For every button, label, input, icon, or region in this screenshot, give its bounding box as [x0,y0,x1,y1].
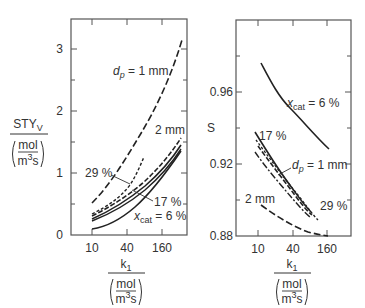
right-xtick-160: 160 [317,242,337,256]
left-xtick-10: 10 [85,241,99,255]
right-ann-xcat: xcat = 6 % [286,96,340,112]
left-xtick-160: 160 [152,241,172,255]
left-ytick-2: 2 [56,104,63,118]
right-ann-29pct: 29 % [320,199,348,213]
svg-text:mol: mol [18,138,37,152]
right-x-axis-label: k1 mol m3s [274,257,311,306]
curve-2mm [261,205,328,236]
right-ann-2mm: 2 mm [245,192,275,206]
left-ann-xcat: xcat = 6 % [133,209,187,225]
left-panel: 0 1 2 3 10 40 160 dp = 1 mm 2 mm 29 % 17… [10,19,187,306]
right-xtick-10: 10 [251,242,265,256]
left-ytick-3: 3 [56,42,63,56]
right-ytick-092: 0.92 [210,157,234,171]
svg-text:m3s: m3s [115,290,136,306]
left-ann-29pct: 29 % [85,166,113,180]
right-y-ticks [236,56,351,200]
left-ann-2mm: 2 mm [155,123,185,137]
right-curves [255,63,329,236]
svg-text:k1: k1 [286,257,297,273]
left-y-axis-label: STYV mol m3s [10,117,48,168]
right-y-axis-label: S [207,121,215,135]
svg-text:mol: mol [282,277,301,291]
right-panel: 0.88 0.92 0.96 10 40 160 xcat = 6 % 17 %… [207,20,351,306]
svg-text:m3s: m3s [17,152,38,168]
right-ann-17pct: 17 % [259,129,287,143]
svg-text:m3s: m3s [281,290,302,306]
left-xtick-40: 40 [120,241,134,255]
right-ann-dp: dp = 1 mm [292,158,347,174]
left-ann-17pct: 17 % [154,195,182,209]
left-x-axis-label: k1 mol m3s [108,257,145,306]
right-ytick-096: 0.96 [210,85,234,99]
left-ytick-0: 0 [56,228,63,242]
right-ytick-088: 0.88 [210,229,234,243]
left-ann-dp: dp = 1 mm [113,64,168,80]
svg-text:mol: mol [116,277,135,291]
svg-text:k1: k1 [120,257,131,273]
chart-figure: 0 1 2 3 10 40 160 dp = 1 mm 2 mm 29 % 17… [0,0,365,308]
left-ytick-1: 1 [56,166,63,180]
svg-text:STYV: STYV [13,117,42,133]
right-xtick-40: 40 [286,242,300,256]
